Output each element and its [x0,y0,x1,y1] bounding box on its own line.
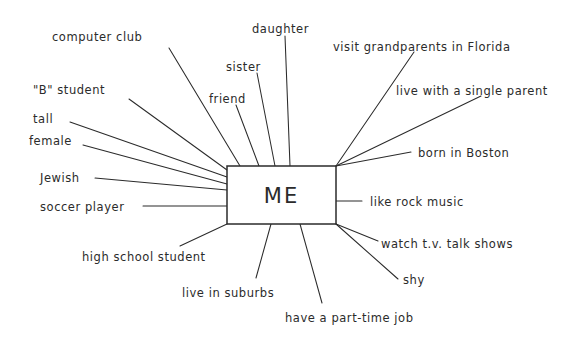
node-label-like-rock-music[interactable]: like rock music [370,197,464,209]
node-label-live-with-single-parent[interactable]: live with a single parent [396,86,548,98]
spoke-line-jewish [95,178,227,190]
node-label-female[interactable]: female [29,136,72,148]
node-label-daughter[interactable]: daughter [252,24,309,36]
node-label-jewish[interactable]: Jewish [40,173,80,185]
node-label-soccer-player[interactable]: soccer player [40,202,124,214]
node-label-friend[interactable]: friend [209,94,246,106]
spoke-line-daughter [285,36,290,166]
spoke-line-high-school-student [180,224,227,246]
node-label-watch-tv-talk-shows[interactable]: watch t.v. talk shows [381,239,513,251]
node-label-b-student[interactable]: "B" student [33,85,105,97]
spoke-line-live-in-suburbs [256,224,271,278]
spoke-line-visit-grandparents-florida [336,52,414,166]
node-label-have-part-time-job[interactable]: have a part-time job [285,313,413,325]
spoke-line-shy [336,224,398,279]
spoke-line-watch-tv-talk-shows [336,224,378,241]
spoke-line-friend [236,105,259,166]
spoke-line-tall [70,122,227,177]
spoke-line-have-part-time-job [300,224,322,303]
center-node-label: ME [264,184,299,208]
spoke-line-sister [257,73,275,166]
spoke-line-born-in-boston [336,152,411,166]
node-label-live-in-suburbs[interactable]: live in suburbs [182,288,274,300]
node-label-tall[interactable]: tall [33,114,53,126]
spoke-line-female [83,145,227,184]
node-label-computer-club[interactable]: computer club [52,32,142,44]
node-label-sister[interactable]: sister [226,62,261,74]
web-diagram-canvas: ME computer club"B" studenttallfemaleJew… [0,0,586,346]
node-label-born-in-boston[interactable]: born in Boston [418,148,509,160]
node-label-visit-grandparents-florida[interactable]: visit grandparents in Florida [333,42,511,54]
node-label-shy[interactable]: shy [403,275,425,287]
node-label-high-school-student[interactable]: high school student [82,252,206,264]
